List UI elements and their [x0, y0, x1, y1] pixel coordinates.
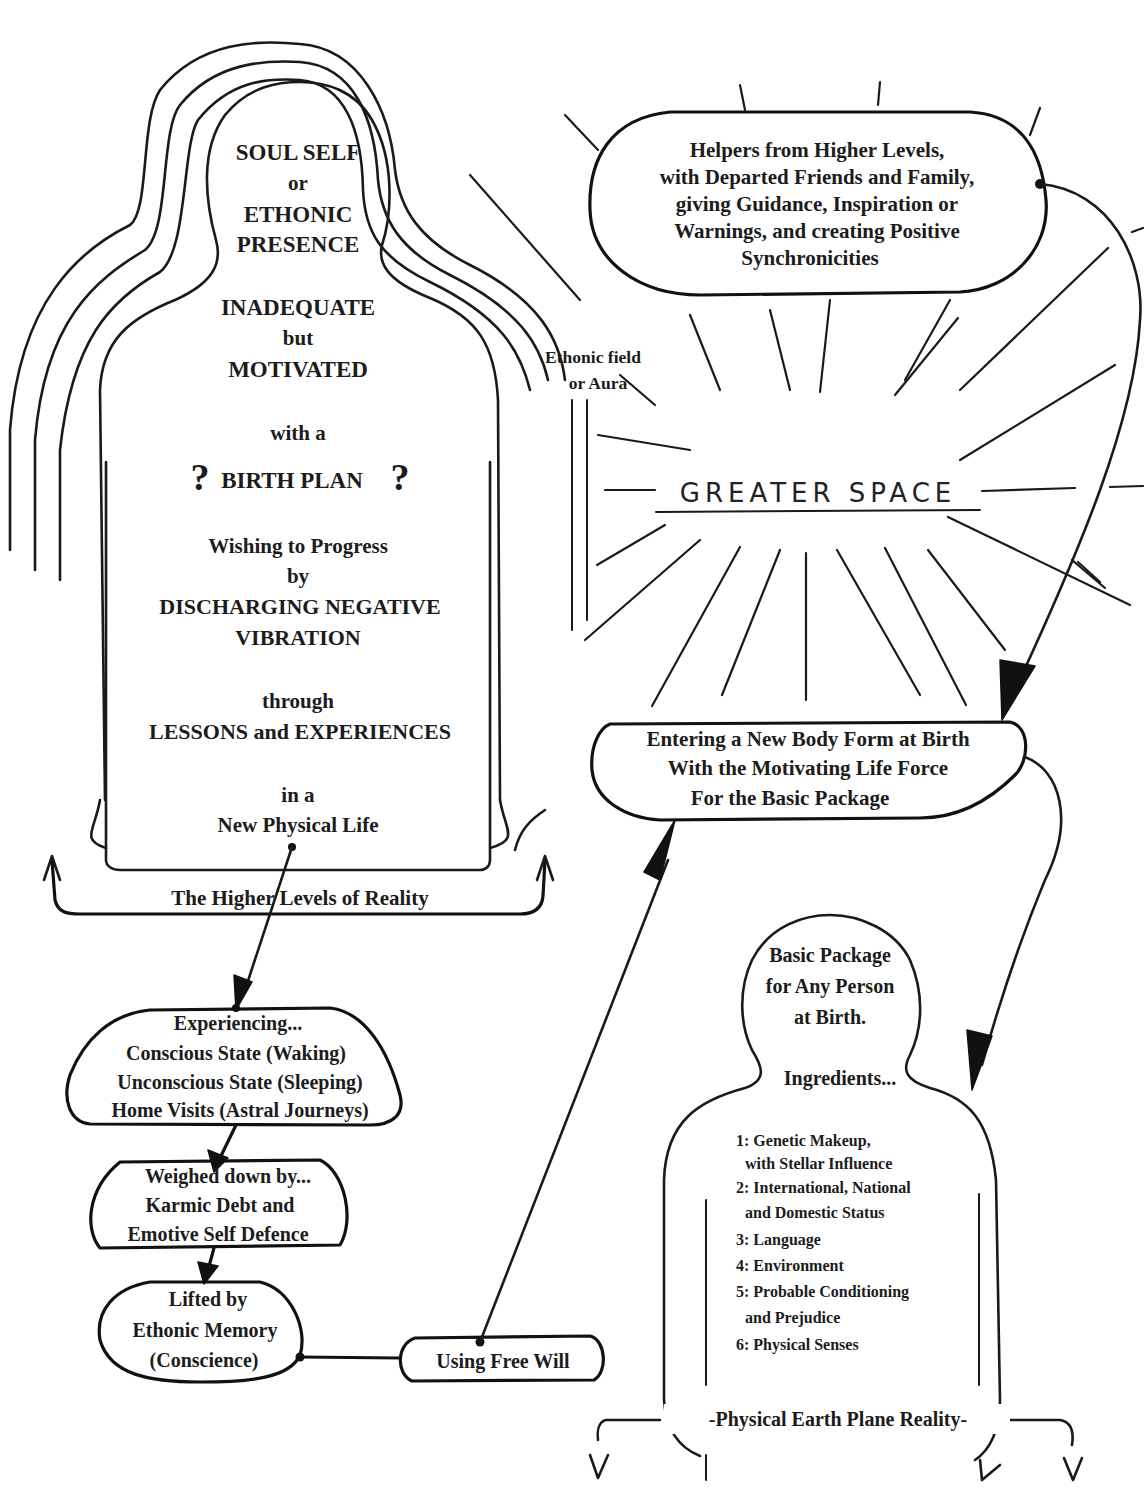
arrow-weighed-to-lifted — [198, 1248, 218, 1284]
ingredient-item: and Domestic Status — [745, 1204, 885, 1221]
ingredient-item: 2: International, National — [736, 1179, 911, 1196]
ingredients-label: Ingredients... — [784, 1067, 896, 1090]
weighed-line: Emotive Self Defence — [127, 1223, 308, 1245]
entering-line: Entering a New Body Form at Birth — [646, 727, 969, 751]
free-will-box: Using Free Will — [400, 1336, 603, 1381]
life-line: in a — [281, 783, 315, 807]
helpers-line: giving Guidance, Inspiration or — [676, 192, 958, 216]
package-head-line: at Birth. — [794, 1006, 866, 1028]
ingredient-item: with Stellar Influence — [745, 1155, 892, 1172]
entering-box: Entering a New Body Form at Birth With t… — [592, 722, 1026, 820]
helpers-line: with Departed Friends and Family, — [660, 165, 974, 189]
progress-line: by — [287, 564, 310, 588]
birth-plan-label: ? BIRTH PLAN ? — [191, 456, 410, 498]
svg-text:BIRTH PLAN: BIRTH PLAN — [221, 468, 363, 493]
aura-label: Ethonic field or Aura — [545, 347, 641, 630]
soul-state-line: MOTIVATED — [228, 357, 368, 382]
experiencing-line: Conscious State (Waking) — [126, 1042, 346, 1065]
arrow-soul-to-experiencing — [234, 843, 296, 1010]
earth-plane-label: -Physical Earth Plane Reality- — [709, 1408, 967, 1431]
soul-state-line: INADEQUATE — [221, 295, 375, 320]
ingredient-item: 4: Environment — [736, 1257, 844, 1274]
package-head-line: Basic Package — [769, 944, 891, 967]
arrow-helpers-to-entering — [1000, 179, 1140, 720]
experiencing-line: Unconscious State (Sleeping) — [117, 1071, 363, 1094]
ingredient-item: 1: Genetic Makeup, — [736, 1132, 871, 1150]
weighed-line: Weighed down by... — [145, 1165, 311, 1188]
lifted-line: Lifted by — [169, 1288, 247, 1311]
svg-text:or Aura: or Aura — [569, 373, 628, 393]
experiencing-box: Experiencing... Conscious State (Waking)… — [67, 1004, 401, 1125]
svg-text:?: ? — [191, 456, 210, 498]
experiencing-line: Experiencing... — [174, 1012, 302, 1035]
entering-line: For the Basic Package — [691, 786, 890, 810]
lifted-line: Ethonic Memory — [133, 1319, 278, 1342]
arrow-free-will-to-entering — [476, 820, 676, 1347]
basic-package-figure: Basic Package for Any Person at Birth. I… — [590, 915, 1082, 1480]
ingredients-list: 1: Genetic Makeup, with Stellar Influenc… — [736, 1132, 911, 1354]
helpers-line: Warnings, and creating Positive — [674, 219, 959, 243]
ingredient-item: and Prejudice — [745, 1309, 840, 1327]
through-line: through — [262, 689, 334, 713]
package-head-line: for Any Person — [766, 975, 895, 998]
with-a-label: with a — [270, 421, 326, 445]
greater-space-label: GREATER SPACE — [656, 472, 980, 512]
helpers-line: Synchronicities — [741, 246, 878, 270]
helpers-line: Helpers from Higher Levels, — [690, 138, 945, 162]
experiencing-line: Home Visits (Astral Journeys) — [111, 1099, 368, 1122]
arrow-entering-to-package — [967, 757, 1061, 1090]
progress-line: DISCHARGING NEGATIVE — [159, 594, 440, 619]
soul-title-line: or — [288, 171, 308, 195]
soul-state-line: but — [283, 326, 313, 350]
weighed-line: Karmic Debt and — [146, 1194, 295, 1216]
through-line: LESSONS and EXPERIENCES — [149, 719, 451, 744]
soul-title-line: PRESENCE — [237, 232, 360, 257]
connector-lifted-to-free-will — [296, 1353, 401, 1362]
progress-line: Wishing to Progress — [208, 534, 388, 558]
free-will-label: Using Free Will — [436, 1350, 570, 1373]
life-line: New Physical Life — [218, 813, 379, 837]
higher-levels-label: The Higher Levels of Reality — [171, 886, 429, 910]
entering-line: With the Motivating Life Force — [668, 756, 948, 780]
svg-text:GREATER SPACE: GREATER SPACE — [680, 478, 956, 508]
weighed-box: Weighed down by... Karmic Debt and Emoti… — [91, 1160, 347, 1248]
svg-text:Ethonic field: Ethonic field — [545, 347, 641, 367]
svg-text:?: ? — [391, 456, 410, 498]
soul-journey-diagram: SOUL SELF or ETHONIC PRESENCE INADEQUATE… — [0, 0, 1147, 1496]
progress-line: VIBRATION — [235, 625, 361, 650]
lifted-box: Lifted by Ethonic Memory (Conscience) — [99, 1282, 302, 1382]
soul-title-line: SOUL SELF — [236, 140, 361, 165]
lifted-line: (Conscience) — [150, 1349, 259, 1372]
ingredient-item: 6: Physical Senses — [736, 1336, 859, 1354]
soul-title-line: ETHONIC — [244, 202, 353, 227]
ingredient-item: 5: Probable Conditioning — [736, 1283, 909, 1301]
soul-figure: SOUL SELF or ETHONIC PRESENCE INADEQUATE… — [10, 42, 565, 914]
ingredient-item: 3: Language — [736, 1231, 821, 1249]
helpers-box: Helpers from Higher Levels, with Departe… — [590, 112, 1046, 295]
